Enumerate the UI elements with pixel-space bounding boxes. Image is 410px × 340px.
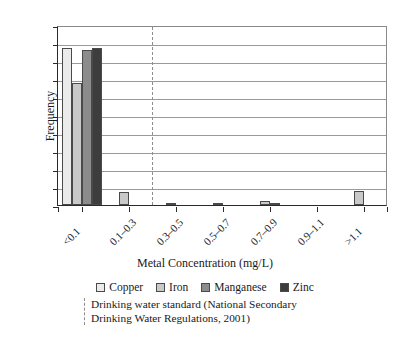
standard-note: Drinking water standard (National Second… [84,298,351,325]
x-tick-label: 0.7–0.9 [248,216,279,247]
bar-manganese [82,50,92,205]
bar-group [341,27,388,205]
bar-group [152,27,199,205]
x-tick-label: 0.3–0.5 [154,216,185,247]
legend-label: Zinc [293,281,314,293]
legend-label: Iron [169,281,188,293]
legend-label: Manganese [214,281,266,293]
bar-iron [119,192,129,205]
x-tick-mark [317,207,318,212]
legend-item-copper: Copper [96,281,143,293]
x-tick-label: >1.1 [342,225,364,247]
x-axis-boundary-tick [387,207,388,212]
bar-group [294,27,341,205]
legend-label: Copper [109,281,143,293]
x-tick-mark [82,207,83,212]
bar-iron [354,191,364,205]
x-tick-mark [270,207,271,212]
plot-area: 0102030405060708090100 <0.10.1–0.30.3–0.… [57,26,387,206]
figure: 0102030405060708090100 <0.10.1–0.30.3–0.… [0,0,410,340]
bar-group [247,27,294,205]
y-tick-mark [53,45,58,46]
bar-zinc [92,48,102,205]
x-tick-mark [176,207,177,212]
x-tick-label: 0.1–0.3 [107,216,138,247]
x-axis-title: Metal Concentration (mg/L) [0,256,410,271]
legend-swatch-icon [280,283,289,292]
x-tick-label: 0.9–1.1 [295,216,326,247]
y-tick-mark [53,189,58,190]
bar-iron [166,203,176,205]
bar-iron [72,83,82,205]
legend-swatch-icon [156,283,165,292]
x-tick-label: <0.1 [60,225,82,247]
x-tick-mark [223,207,224,212]
y-axis-title: Frequency [43,91,58,142]
legend-swatch-icon [96,283,105,292]
bar-group [58,27,105,205]
drinking-water-standard-line [152,27,153,205]
y-tick-mark [53,81,58,82]
x-tick-mark [129,207,130,212]
y-tick-mark [53,63,58,64]
bar-group [199,27,246,205]
x-axis-boundary-tick [58,207,59,212]
bar-group [105,27,152,205]
y-tick-mark [53,171,58,172]
legend-item-zinc: Zinc [280,281,314,293]
legend-item-iron: Iron [156,281,188,293]
legend-item-manganese: Manganese [201,281,266,293]
bar-groups [58,27,386,205]
bar-iron [260,201,270,205]
bar-iron [213,203,223,205]
legend: CopperIronManganeseZinc [0,281,410,293]
standard-note-line-2: Drinking Water Regulations, 2001) [91,312,351,326]
y-tick-mark [53,27,58,28]
bar-copper [62,48,72,205]
legend-swatch-icon [201,283,210,292]
x-tick-mark [364,207,365,212]
y-tick-mark [53,153,58,154]
bar-manganese [270,203,280,205]
standard-note-line-1: Drinking water standard (National Second… [91,298,351,312]
x-tick-label: 0.5–0.7 [201,216,232,247]
